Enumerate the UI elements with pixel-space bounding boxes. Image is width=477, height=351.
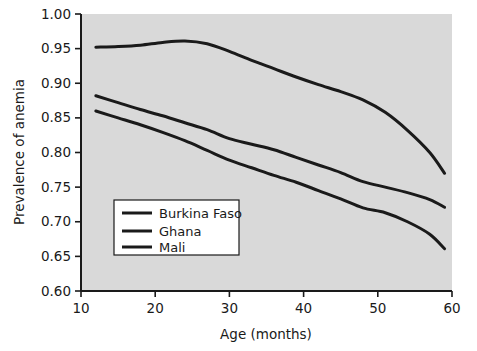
y-tick-label: 0.80 bbox=[41, 144, 71, 160]
y-tick-label: 0.85 bbox=[41, 109, 71, 125]
x-tick-label: 10 bbox=[72, 300, 89, 316]
line-chart: 0.600.650.700.750.800.850.900.951.00 102… bbox=[0, 0, 477, 351]
x-tick-label: 50 bbox=[369, 300, 386, 316]
x-tick-label: 60 bbox=[443, 300, 460, 316]
y-tick-label: 0.65 bbox=[41, 248, 71, 264]
y-axis-title: Prevalence of anemia bbox=[11, 79, 27, 225]
y-tick-label: 0.60 bbox=[41, 283, 71, 299]
legend-label-burkina-faso: Burkina Faso bbox=[159, 206, 242, 221]
y-tick-label: 0.95 bbox=[41, 40, 71, 56]
y-tick-label: 1.00 bbox=[41, 6, 71, 22]
y-tick-label: 0.70 bbox=[41, 213, 71, 229]
chart-figure: 0.600.650.700.750.800.850.900.951.00 102… bbox=[0, 0, 477, 351]
y-tick-label: 0.90 bbox=[41, 75, 71, 91]
legend-label-mali: Mali bbox=[159, 240, 185, 255]
y-tick-label: 0.75 bbox=[41, 179, 71, 195]
legend[interactable]: Burkina Faso Ghana Mali bbox=[114, 200, 242, 255]
x-axis-title: Age (months) bbox=[220, 326, 312, 342]
y-axis-tick-labels: 0.600.650.700.750.800.850.900.951.00 bbox=[41, 6, 71, 299]
legend-label-ghana: Ghana bbox=[159, 224, 202, 239]
x-tick-label: 20 bbox=[147, 300, 164, 316]
x-tick-label: 40 bbox=[295, 300, 312, 316]
x-tick-label: 30 bbox=[221, 300, 238, 316]
